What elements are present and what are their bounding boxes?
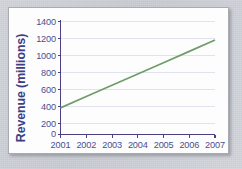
x-tick-label-2004: 2004: [128, 140, 148, 150]
y-axis-title: Revenue (millions): [14, 34, 28, 142]
y-tick-label-600: 600: [41, 85, 56, 95]
axes: [61, 20, 216, 135]
y-tick-label-0: 0: [51, 129, 56, 139]
data-series-group: [61, 40, 216, 108]
chart-svg: Revenue (millions) 1400 1200 1000 800 60…: [9, 8, 230, 155]
y-tick-label-1400: 1400: [36, 17, 56, 27]
y-tick-label-200: 200: [41, 119, 56, 129]
y-axis-tick-labels: 1400 1200 1000 800 600 400 200 0: [36, 17, 56, 139]
x-tick-label-2006: 2006: [179, 140, 199, 150]
gridlines: [61, 22, 216, 124]
x-tick-label-2005: 2005: [154, 140, 174, 150]
y-tick-label-800: 800: [41, 68, 56, 78]
series-line-revenue: [61, 40, 216, 108]
revenue-line-chart: Revenue (millions) 1400 1200 1000 800 60…: [9, 8, 230, 155]
y-tick-label-1200: 1200: [36, 34, 56, 44]
x-tick-label-2003: 2003: [102, 140, 122, 150]
chart-card: Revenue (millions) 1400 1200 1000 800 60…: [8, 7, 229, 154]
y-tick-label-400: 400: [41, 102, 56, 112]
y-tick-label-1000: 1000: [36, 51, 56, 61]
x-tick-label-2002: 2002: [76, 140, 96, 150]
x-axis-tick-labels: 2001 2002 2003 2004 2005 2006 2007: [51, 140, 225, 150]
y-axis-title-text: Revenue (millions): [14, 34, 28, 142]
x-tick-label-2007: 2007: [205, 140, 225, 150]
x-tick-label-2001: 2001: [51, 140, 71, 150]
